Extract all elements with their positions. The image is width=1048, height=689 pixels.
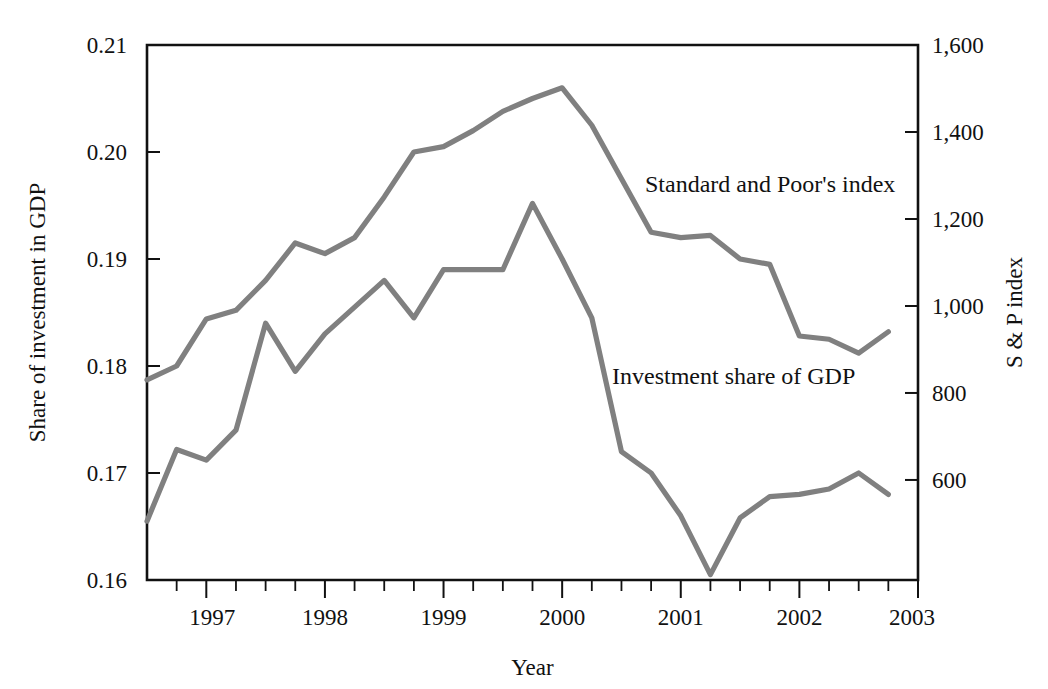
y-tick-label-left: 0.20	[87, 140, 127, 165]
y-tick-label-left: 0.19	[87, 247, 127, 272]
y-tick-label-left: 0.18	[87, 354, 127, 379]
y-axis-title-left: Share of investment in GDP	[25, 183, 50, 442]
y-tick-label-left: 0.16	[87, 568, 127, 593]
x-tick-label: 2001	[658, 605, 704, 630]
y-tick-label-right: 1,000	[932, 294, 984, 319]
y-axis-title-right: S & P index	[1002, 257, 1027, 368]
chart-container: 0.210.200.190.180.170.161,6001,4001,2001…	[0, 0, 1048, 689]
y-tick-label-left: 0.17	[87, 461, 127, 486]
line-chart: 0.210.200.190.180.170.161,6001,4001,2001…	[0, 0, 1048, 689]
annotation-sp-index: Standard and Poor's index	[645, 171, 895, 197]
x-tick-label: 1999	[421, 605, 467, 630]
x-tick-label: 2002	[776, 605, 822, 630]
y-tick-label-left: 0.21	[87, 33, 127, 58]
x-tick-label: 2000	[539, 605, 585, 630]
y-tick-label-right: 1,400	[932, 120, 984, 145]
y-tick-label-right: 1,600	[932, 33, 984, 58]
x-tick-label: 1998	[302, 605, 348, 630]
x-axis-title: Year	[511, 655, 554, 680]
x-tick-label: 2003	[889, 605, 935, 630]
y-tick-label-right: 800	[932, 381, 967, 406]
y-tick-label-right: 1,200	[932, 207, 984, 232]
series-line-investment	[147, 203, 888, 574]
plot-frame	[147, 45, 918, 580]
y-tick-label-right: 600	[932, 468, 967, 493]
x-tick-label: 1997	[189, 605, 235, 630]
annotation-investment-share: Investment share of GDP	[612, 363, 855, 389]
